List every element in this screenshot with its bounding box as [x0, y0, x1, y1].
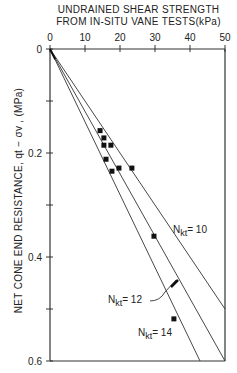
- y-axis-label: NET CONE END RESISTANCE, qt − σv , (MPa): [13, 71, 24, 331]
- y-tick-label: 0: [36, 44, 42, 55]
- data-point: [101, 143, 106, 148]
- y-tick-label: 0.6: [28, 356, 42, 367]
- data-point: [98, 128, 103, 133]
- nkt-12-label: Nkt= 12: [108, 294, 142, 308]
- y-tick-label: 0.2: [28, 148, 42, 159]
- data-point: [116, 166, 121, 171]
- data-point: [104, 157, 109, 162]
- nkt-10-label: Nkt= 10: [173, 224, 207, 238]
- data-point: [108, 143, 113, 148]
- nkt-line-12: [50, 49, 225, 361]
- data-point: [109, 169, 114, 174]
- nkt-14-label: Nkt= 14: [138, 327, 172, 341]
- data-point: [129, 166, 134, 171]
- nkt-line-10: [50, 49, 225, 309]
- x-tick-label: 0: [47, 32, 53, 43]
- y-tick-label: 0.4: [28, 252, 42, 263]
- data-point: [101, 135, 106, 140]
- nkt-line-14: [50, 49, 200, 361]
- data-point: [151, 234, 156, 239]
- x-tick-label: 20: [114, 32, 126, 43]
- x-tick-label: 10: [79, 32, 91, 43]
- x-tick-label: 50: [219, 32, 231, 43]
- x-tick-label: 40: [184, 32, 196, 43]
- data-point: [171, 316, 176, 321]
- x-tick-label: 30: [149, 32, 161, 43]
- origin-mark: [50, 49, 55, 59]
- chart-plot: 0102030405000.20.40.6Nkt= 10Nkt= 12Nkt= …: [0, 0, 237, 373]
